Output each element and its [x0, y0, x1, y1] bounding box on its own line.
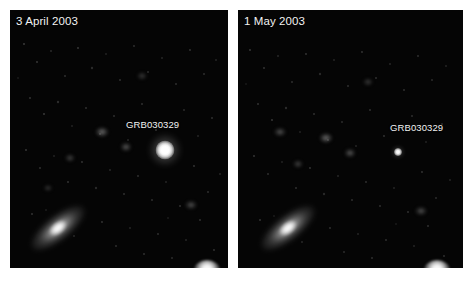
field-galaxy — [415, 207, 427, 216]
field-galaxy — [65, 154, 75, 162]
field-galaxy — [137, 72, 147, 80]
field-galaxy — [345, 149, 356, 158]
field-galaxy — [44, 185, 53, 192]
grb-object-label-left: GRB030329 — [126, 119, 179, 130]
date-label-left: 3 April 2003 — [16, 15, 78, 27]
image-panel-right[interactable]: 1 May 2003 GRB030329 — [238, 10, 463, 268]
grb-object-label-right: GRB030329 — [390, 122, 443, 133]
field-galaxy — [185, 201, 197, 210]
field-galaxy — [121, 143, 132, 152]
field-galaxy — [274, 128, 286, 137]
field-galaxy — [293, 160, 303, 168]
image-panel-left[interactable]: 3 April 2003 GRB030329 — [10, 10, 228, 268]
field-galaxy — [320, 133, 333, 143]
date-label-right: 1 May 2003 — [244, 15, 305, 27]
field-galaxy — [96, 127, 109, 137]
figure-container: 3 April 2003 GRB030329 — [0, 0, 471, 283]
field-galaxy — [363, 78, 373, 86]
